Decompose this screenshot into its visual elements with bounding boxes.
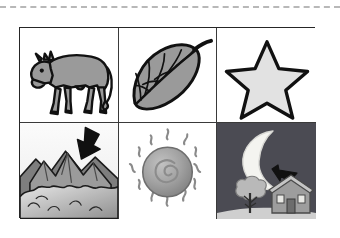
sun-icon — [119, 123, 216, 219]
grid-cell-sun[interactable] — [119, 123, 217, 219]
grid-cell-mountains[interactable] — [20, 123, 119, 219]
grid-cell-cow[interactable] — [20, 28, 119, 123]
cow-eye — [40, 68, 44, 72]
leaf-icon — [119, 28, 216, 122]
star-icon — [217, 28, 316, 122]
moon-night-scene-icon — [217, 123, 316, 219]
grid-cell-leaf[interactable] — [119, 28, 217, 123]
worksheet-page — [0, 0, 340, 238]
grid-cell-moon[interactable] — [217, 123, 316, 219]
grid-cell-star[interactable] — [217, 28, 316, 123]
cow-icon — [20, 28, 118, 122]
mountains-icon — [20, 123, 118, 219]
picture-grid — [19, 27, 315, 218]
dashed-cut-line — [0, 6, 340, 8]
